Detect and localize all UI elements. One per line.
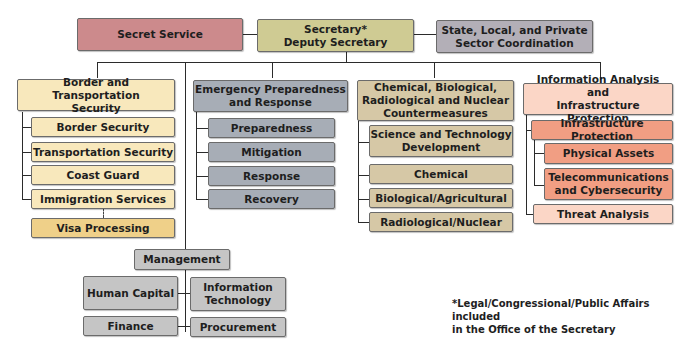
science-technology-box: Science and Technology Development (369, 125, 513, 157)
tick (196, 176, 208, 177)
immigration-services-box: Immigration Services (31, 189, 175, 209)
response-box: Response (208, 166, 335, 186)
infrastructure-protection-box: Infrastructure Protection (531, 120, 673, 140)
unit-label: Transportation Security (33, 146, 173, 159)
border-security-box: Border Security (31, 117, 175, 137)
division-title: Chemical, Biological, Radiological and N… (362, 81, 509, 120)
connector-top-right (413, 34, 437, 35)
unit-label: Mitigation (241, 146, 302, 159)
management-label: Management (143, 253, 220, 266)
connector-infra-branch (534, 138, 535, 185)
secretary-label: Secretary* Deputy Secretary (284, 23, 388, 49)
unit-label: Chemical (414, 168, 468, 181)
radiological-nuclear-box: Radiological/Nuclear (369, 212, 513, 232)
connector-col2 (272, 62, 273, 78)
connector-horizontal-bus (97, 62, 601, 63)
unit-label: Human Capital (87, 287, 174, 300)
recovery-box: Recovery (208, 189, 335, 209)
telecommunications-cybersecurity-box: Telecommunications and Cybersecurity (544, 168, 673, 200)
unit-label: Recovery (244, 193, 299, 206)
transportation-security-box: Transportation Security (31, 142, 175, 162)
state-local-coordination-box: State, Local, and Private Sector Coordin… (436, 20, 593, 53)
finance-box: Finance (83, 316, 178, 336)
connector-secretary-down (346, 52, 347, 62)
cbrn-countermeasures-box: Chemical, Biological, Radiological and N… (357, 80, 514, 121)
tick (196, 152, 208, 153)
division-title: Emergency Preparedness and Response (195, 83, 346, 109)
secret-service-box: Secret Service (77, 18, 243, 51)
connector-col3 (434, 62, 435, 78)
management-box: Management (134, 249, 230, 270)
connector-col1-branch (22, 112, 23, 200)
coast-guard-box: Coast Guard (31, 165, 175, 185)
human-capital-box: Human Capital (83, 276, 178, 310)
unit-label: Information Technology (203, 281, 273, 307)
footnote: *Legal/Congressional/Public Affairs incl… (452, 297, 692, 336)
unit-label: Finance (107, 320, 153, 333)
preparedness-box: Preparedness (208, 118, 335, 138)
unit-label: Coast Guard (67, 169, 140, 182)
information-technology-box: Information Technology (190, 277, 286, 311)
unit-label: Visa Processing (56, 222, 149, 235)
border-transportation-security-box: Border and Transportation Security (17, 79, 175, 111)
unit-label: Infrastructure Protection (532, 117, 672, 143)
unit-label: Procurement (200, 321, 277, 334)
chemical-box: Chemical (369, 164, 513, 184)
secret-service-label: Secret Service (117, 28, 203, 41)
mitigation-box: Mitigation (208, 142, 335, 162)
unit-label: Border Security (57, 121, 150, 134)
unit-label: Response (243, 170, 300, 183)
unit-label: Threat Analysis (557, 208, 649, 221)
visa-processing-box: Visa Processing (31, 218, 175, 238)
tick (534, 185, 544, 186)
connector-col3-branch (358, 120, 359, 223)
procurement-box: Procurement (190, 317, 286, 337)
connector-col2-branch (196, 112, 197, 200)
division-title: Border and Transportation Security (18, 76, 174, 115)
unit-label: Biological/Agricultural (375, 192, 507, 205)
threat-analysis-box: Threat Analysis (533, 204, 673, 224)
unit-label: Immigration Services (40, 193, 166, 206)
connector-visa-dashed (103, 208, 104, 218)
tick (534, 153, 544, 154)
connector-management-trunk (185, 62, 186, 332)
unit-label: Telecommunications and Cybersecurity (548, 171, 668, 197)
unit-label: Radiological/Nuclear (380, 216, 502, 229)
physical-assets-box: Physical Assets (544, 143, 673, 164)
unit-label: Science and Technology Development (370, 128, 511, 154)
unit-label: Preparedness (231, 122, 313, 135)
state-local-label: State, Local, and Private Sector Coordin… (441, 24, 587, 50)
information-analysis-box: Information Analysis and Infrastructure … (523, 83, 673, 115)
biological-agricultural-box: Biological/Agricultural (369, 188, 513, 208)
tick (196, 199, 208, 200)
secretary-box: Secretary* Deputy Secretary (257, 19, 414, 52)
tick (196, 128, 208, 129)
unit-label: Physical Assets (563, 147, 654, 160)
emergency-preparedness-box: Emergency Preparedness and Response (193, 80, 348, 112)
